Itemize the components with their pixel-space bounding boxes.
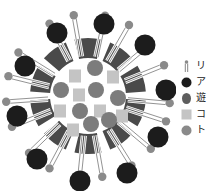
inner-square — [73, 89, 85, 102]
lipoprotein-diagram — [0, 0, 176, 191]
lipid-molecule — [70, 11, 83, 57]
legend: リ ア 遊 コ ト — [181, 58, 214, 138]
lipid-hairpin-icon — [181, 60, 192, 73]
inner-square — [107, 71, 119, 84]
inner-circle — [110, 90, 126, 106]
gray-circle-icon — [181, 124, 192, 137]
inner-square — [69, 70, 81, 83]
dark-circle — [94, 14, 115, 35]
lipid-head — [14, 48, 22, 56]
lipid-head — [4, 72, 12, 80]
dark-circle — [7, 106, 28, 127]
legend-label: リ — [196, 60, 206, 72]
dark-circle — [117, 163, 138, 184]
dark-circle — [70, 171, 91, 192]
legend-label: ト — [196, 124, 206, 136]
dark-circle — [27, 149, 48, 170]
lipid-molecule — [93, 135, 106, 181]
inner-square — [67, 124, 79, 137]
legend-item-gray-circle: ト — [181, 122, 214, 138]
lipid-head — [125, 21, 133, 29]
dark-circle-icon — [181, 76, 192, 89]
inner-circle — [101, 112, 117, 128]
legend-item-dark-circle: ア — [181, 74, 214, 90]
lipid-head — [45, 164, 53, 172]
dark-circle — [148, 127, 169, 148]
inner-circle — [83, 116, 99, 132]
dark-circle — [156, 80, 177, 101]
lipid-head — [2, 98, 10, 106]
dark-circle — [47, 23, 68, 44]
light-square-icon — [181, 108, 192, 121]
mid-circle-icon — [181, 92, 192, 105]
inner-circle — [88, 82, 104, 98]
inner-circle — [87, 60, 103, 76]
lipid-head — [162, 117, 170, 125]
inner-square — [54, 105, 66, 118]
legend-item-mid-circle: 遊 — [181, 90, 214, 106]
lipid-head — [98, 173, 106, 181]
lipid-head — [160, 61, 168, 69]
inner-square — [116, 110, 128, 123]
dark-circle — [135, 35, 156, 56]
legend-label: コ — [196, 108, 206, 120]
legend-item-light-square: コ — [181, 106, 214, 122]
inner-circle — [53, 82, 69, 98]
legend-item-lipid: リ — [181, 58, 214, 74]
dark-circle — [15, 56, 36, 77]
legend-label: 遊 — [196, 92, 206, 104]
legend-label: ア — [196, 76, 206, 88]
lipid-head — [70, 11, 78, 19]
inner-circle — [72, 103, 88, 119]
